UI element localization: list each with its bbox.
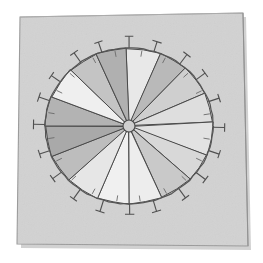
- screenshot-canvas: Hand-drawn segmented wheel diagram on pa…: [0, 0, 263, 263]
- diagram-svg: [0, 0, 263, 263]
- center-hub[interactable]: [123, 120, 135, 132]
